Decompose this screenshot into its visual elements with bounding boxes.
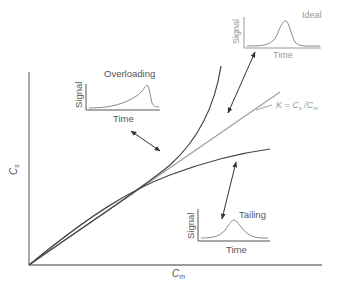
overloading-title: Overloading <box>104 68 155 79</box>
ideal-inset: Ideal Time Signal <box>231 10 322 60</box>
k-equation-label: K = Cs /Cm <box>276 100 318 111</box>
overloading-xlabel: Time <box>113 113 134 124</box>
tailing-ylabel: Signal <box>185 213 196 239</box>
ideal-xlabel: Time <box>273 50 293 60</box>
overloading-inset: Overloading Time Signal <box>73 68 160 124</box>
tailing-arrow <box>222 162 236 219</box>
ideal-title: Ideal <box>302 10 322 20</box>
tailing-inset: Tailing Time Signal <box>185 209 270 255</box>
x-axis-label: Cm <box>172 268 185 280</box>
overloading-arrow <box>131 131 160 151</box>
ideal-arrow <box>228 52 255 113</box>
tailing-xlabel: Time <box>226 244 247 255</box>
y-axis-label: Cs <box>8 164 20 175</box>
isotherm-diagram: Cs Cm K = Cs /Cm Ideal Time Signal Overl… <box>0 0 341 291</box>
overloading-ylabel: Signal <box>73 82 84 108</box>
ideal-ylabel: Signal <box>231 19 241 44</box>
tailing-title: Tailing <box>239 209 266 220</box>
